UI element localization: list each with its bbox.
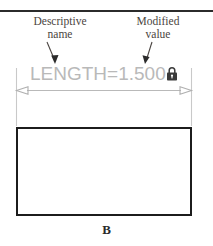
top-divider-rule <box>0 10 213 12</box>
annotation-descriptive-name-line2: name <box>16 28 104 41</box>
arrowhead-right <box>180 87 192 94</box>
annotation-modified-value-line1: Modified <box>119 15 197 28</box>
figure-letter-label: B <box>0 222 213 238</box>
dimension-constraint-text[interactable]: LENGTH=1.500 <box>30 62 170 86</box>
annotation-descriptive-name: Descriptive name <box>16 15 104 41</box>
padlock-icon[interactable] <box>166 67 178 81</box>
annotation-modified-value: Modified value <box>119 15 197 41</box>
annotation-modified-value-line2: value <box>119 28 197 41</box>
arrowhead-left <box>17 87 29 94</box>
rectangle-shape[interactable] <box>16 127 192 216</box>
annotation-descriptive-name-line1: Descriptive <box>16 15 104 28</box>
leader-arrow-descriptive-name <box>47 42 59 64</box>
figure-b: Descriptive name Modified value LENGTH=1… <box>0 0 213 246</box>
leader-arrow-modified-value <box>143 42 153 64</box>
